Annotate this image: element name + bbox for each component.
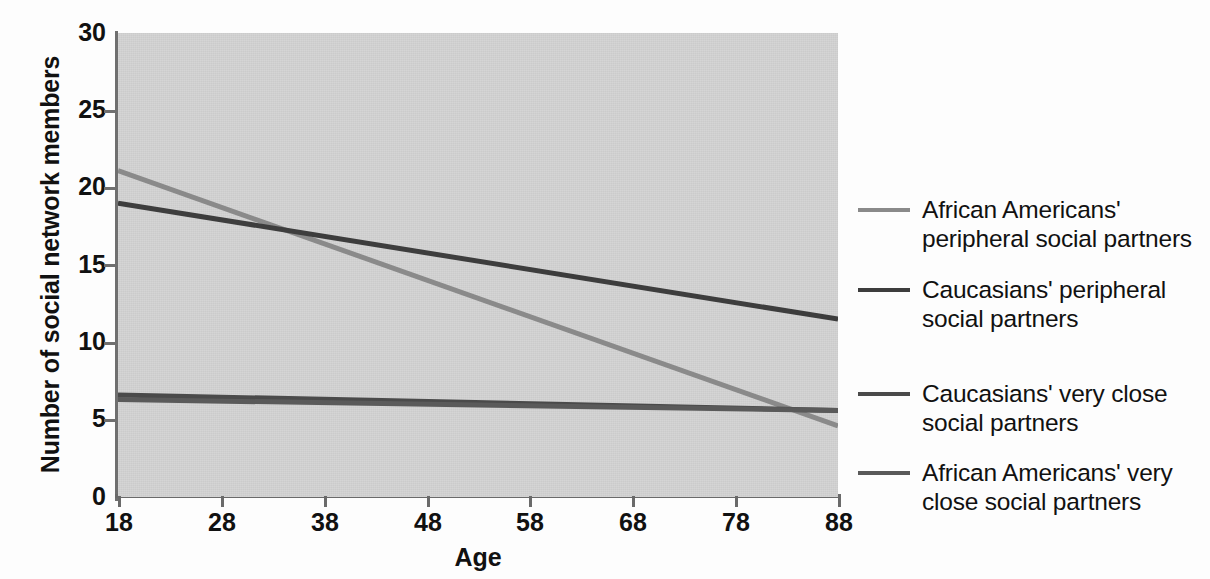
- legend-label-3: African Americans' very close social par…: [922, 459, 1173, 517]
- x-tick-label-38: 38: [295, 508, 355, 537]
- legend-label-1-line2: social partners: [922, 305, 1166, 334]
- x-tick-label-28: 28: [192, 508, 252, 537]
- line-caucasians-peripheral: [118, 203, 838, 319]
- x-tick-mark-78: [735, 496, 738, 507]
- legend-label-3-line2: close social partners: [922, 488, 1173, 517]
- line-african-americans-peripheral: [118, 171, 838, 426]
- legend-label-2: Caucasians' very close social partners: [922, 380, 1167, 438]
- legend-item-caucasians-very-close[interactable]: Caucasians' very close social partners: [858, 380, 1208, 438]
- y-tick-label-30: 30: [52, 18, 106, 47]
- legend-item-african-americans-very-close[interactable]: African Americans' very close social par…: [858, 459, 1208, 517]
- x-tick-mark-28: [221, 496, 224, 507]
- plot-area: [118, 33, 838, 497]
- y-tick-label-15: 15: [52, 250, 106, 279]
- legend-label-2-line2: social partners: [922, 409, 1167, 438]
- x-tick-mark-88: [838, 496, 841, 507]
- legend-item-caucasians-peripheral[interactable]: Caucasians' peripheral social partners: [858, 276, 1208, 334]
- x-tick-label-58: 58: [500, 508, 560, 537]
- legend-swatch-icon-0: [858, 208, 910, 212]
- y-tick-label-25: 25: [52, 95, 106, 124]
- legend-label-3-line1: African Americans' very: [922, 459, 1173, 488]
- x-tick-mark-18: [118, 496, 121, 507]
- y-tick-label-0: 0: [52, 482, 106, 511]
- y-tick-label-10: 10: [52, 327, 106, 356]
- x-tick-mark-68: [632, 496, 635, 507]
- legend-label-2-line1: Caucasians' very close: [922, 380, 1167, 409]
- y-tick-label-5: 5: [52, 404, 106, 433]
- x-tick-label-48: 48: [398, 508, 458, 537]
- chart-legend: African Americans' peripheral social par…: [858, 196, 1208, 539]
- legend-swatch-icon-2: [858, 392, 910, 396]
- legend-label-0-line1: African Americans': [922, 196, 1192, 225]
- data-lines: [118, 33, 838, 497]
- x-tick-mark-38: [324, 496, 327, 507]
- chart-figure: Number of social network members 30 25 2…: [0, 0, 1210, 579]
- legend-label-0-line2: peripheral social partners: [922, 225, 1192, 254]
- legend-item-african-americans-peripheral[interactable]: African Americans' peripheral social par…: [858, 196, 1208, 254]
- x-tick-label-18: 18: [89, 508, 149, 537]
- legend-swatch-icon-1: [858, 288, 910, 292]
- legend-label-1: Caucasians' peripheral social partners: [922, 276, 1166, 334]
- legend-label-1-line1: Caucasians' peripheral: [922, 276, 1166, 305]
- x-axis-title: Age: [118, 543, 838, 572]
- legend-spacer: [858, 356, 1208, 380]
- x-tick-mark-58: [529, 496, 532, 507]
- x-tick-label-68: 68: [603, 508, 663, 537]
- x-tick-mark-48: [427, 496, 430, 507]
- x-tick-label-78: 78: [706, 508, 766, 537]
- legend-label-0: African Americans' peripheral social par…: [922, 196, 1192, 254]
- legend-swatch-icon-3: [858, 471, 910, 475]
- y-tick-label-20: 20: [52, 172, 106, 201]
